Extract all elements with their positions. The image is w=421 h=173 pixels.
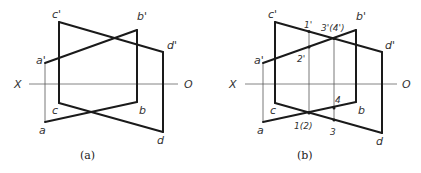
caption-a: (a) — [80, 149, 95, 162]
label-d: d — [376, 135, 384, 148]
panel-a: c' b' d' a' X O c b a d (a) — [13, 8, 193, 162]
label-c-prime: c' — [268, 8, 277, 21]
label-b: b — [358, 104, 365, 117]
label-axis-x: X — [13, 78, 22, 91]
label-b-prime: b' — [137, 10, 147, 23]
label-d: d — [157, 134, 165, 147]
label-a-prime: a' — [254, 54, 264, 67]
label-axis-x: X — [228, 78, 237, 91]
label-3: 3 — [330, 127, 336, 137]
label-axis-o: O — [184, 78, 193, 91]
label-c: c — [270, 104, 276, 117]
point-4 — [333, 107, 336, 110]
point-3-4-prime — [333, 37, 336, 40]
label-c: c — [52, 104, 58, 117]
label-d-prime: d' — [385, 39, 395, 52]
label-d-prime: d' — [167, 39, 177, 52]
point-1-2 — [308, 112, 311, 115]
label-b-prime: b' — [356, 10, 366, 23]
label-1-2: 1(2) — [294, 121, 312, 131]
panel-b: c' b' d' a' 1' 3'(4') 2' X O 4 c b a 1(2… — [228, 8, 411, 162]
label-c-prime: c' — [52, 8, 61, 21]
label-2-prime: 2' — [297, 54, 305, 64]
point-1-prime — [308, 30, 311, 33]
label-4: 4 — [335, 95, 341, 105]
label-1-prime: 1' — [304, 20, 312, 30]
point-3 — [333, 119, 336, 122]
projection-diagram: c' b' d' a' X O c b a d (a) — [0, 0, 421, 173]
label-a: a — [39, 124, 46, 137]
label-b: b — [139, 104, 146, 117]
label-3-4-prime: 3'(4') — [321, 23, 344, 33]
point-2-prime — [308, 46, 311, 49]
label-axis-o: O — [402, 78, 411, 91]
caption-b: (b) — [297, 149, 313, 162]
label-a: a — [257, 124, 264, 137]
edge-a-b — [45, 102, 137, 122]
label-a-prime: a' — [36, 54, 46, 67]
edge-c-prime-d-prime — [59, 22, 163, 52]
